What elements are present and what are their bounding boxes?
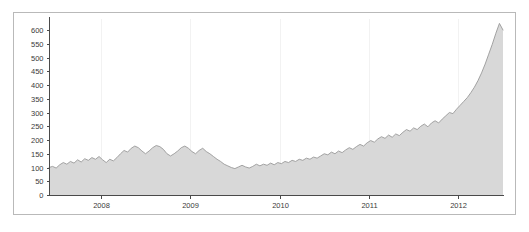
chart-frame: 0501001502002503003504004505005506002008…: [13, 12, 516, 215]
y-tick-label-100: 100: [31, 164, 44, 173]
series-area-fill: [49, 23, 503, 195]
y-tick-label-350: 350: [31, 95, 44, 104]
chart-plot: 0501001502002503003504004505005506002008…: [14, 13, 515, 214]
x-tick-label-2008: 2008: [93, 201, 110, 210]
y-tick-label-300: 300: [31, 109, 44, 118]
chart-figure: 0501001502002503003504004505005506002008…: [0, 0, 529, 232]
x-tick-label-2011: 2011: [361, 201, 377, 210]
y-tick-label-250: 250: [31, 122, 44, 131]
y-tick-label-600: 600: [31, 26, 44, 35]
x-tick-label-2012: 2012: [450, 201, 467, 210]
y-tick-label-550: 550: [31, 40, 44, 49]
y-tick-label-400: 400: [31, 81, 44, 90]
y-tick-label-50: 50: [35, 177, 43, 186]
y-tick-label-500: 500: [31, 54, 44, 63]
x-tick-label-2009: 2009: [182, 201, 199, 210]
y-tick-label-200: 200: [31, 136, 44, 145]
y-tick-label-150: 150: [31, 150, 44, 159]
y-tick-label-0: 0: [39, 191, 43, 200]
y-tick-label-450: 450: [31, 67, 44, 76]
x-tick-label-2010: 2010: [272, 201, 289, 210]
